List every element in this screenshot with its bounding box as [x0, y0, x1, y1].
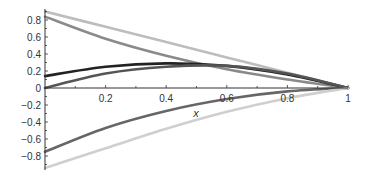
curve-6-line: [45, 88, 348, 168]
y-tick-label: −0.4: [21, 117, 41, 128]
y-tick-label: 0.8: [27, 15, 41, 26]
y-tick-label: −0.8: [21, 151, 41, 162]
x-tick-label: 1: [345, 93, 351, 104]
x-tick-label: 0.4: [159, 93, 173, 104]
y-tick-label: 0.4: [27, 49, 41, 60]
x-tick-label: 0.2: [99, 93, 113, 104]
x-tick-label: 0.8: [280, 93, 294, 104]
x-axis-label: x: [192, 107, 199, 119]
y-tick-label: −0.2: [21, 100, 41, 111]
y-tick-label: 0.2: [27, 66, 41, 77]
curves: [45, 12, 348, 168]
y-tick-label: 0.6: [27, 32, 41, 43]
line-chart: 0.20.40.60.81 0.80.60.40.20−0.2−0.4−0.6−…: [0, 0, 366, 179]
y-tick-label: 0: [35, 83, 41, 94]
x-tick-label: 0.6: [220, 93, 234, 104]
y-axis: 0.80.60.40.20−0.2−0.4−0.6−0.8: [21, 9, 48, 170]
y-tick-label: −0.6: [21, 134, 41, 145]
